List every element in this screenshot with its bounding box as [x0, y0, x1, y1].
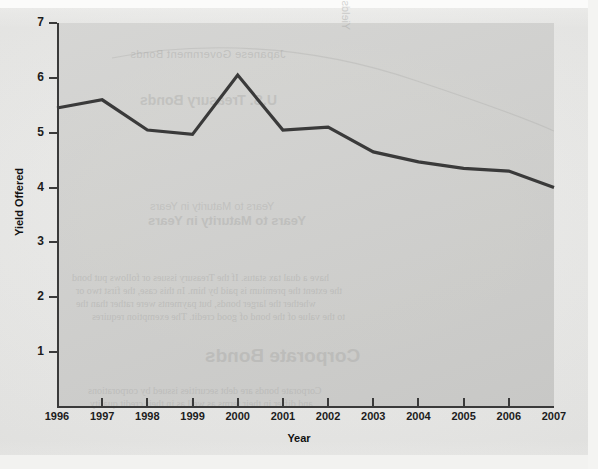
y-axis-title: Yield Offered [13, 157, 25, 247]
x-axis-line [57, 406, 554, 408]
y-tick-label: 6 [22, 70, 44, 84]
x-tick-mark [463, 398, 465, 406]
y-tick-label: 4 [22, 180, 44, 194]
y-tick-mark [49, 296, 57, 298]
x-tick-mark [508, 398, 510, 406]
x-tick-label: 1997 [80, 410, 124, 422]
y-tick-mark [49, 132, 57, 134]
x-tick-label: 2004 [396, 410, 440, 422]
x-tick-mark [146, 398, 148, 406]
y-tick-mark [49, 187, 57, 189]
x-tick-mark [372, 398, 374, 406]
x-tick-label: 1998 [125, 410, 169, 422]
x-tick-mark [282, 398, 284, 406]
y-axis-line [57, 23, 59, 408]
x-tick-mark [237, 398, 239, 406]
y-tick-label: 1 [22, 344, 44, 358]
x-tick-label: 2005 [442, 410, 486, 422]
y-tick-label: 3 [22, 234, 44, 248]
line-chart: Japanese Government Bonds U.S. Treasury … [0, 0, 598, 469]
x-tick-label: 2001 [261, 410, 305, 422]
x-tick-label: 1999 [171, 410, 215, 422]
y-tick-mark [49, 22, 57, 24]
x-tick-mark [327, 398, 329, 406]
x-tick-label: 2003 [351, 410, 395, 422]
y-tick-label: 2 [22, 289, 44, 303]
y-tick-mark [49, 351, 57, 353]
y-tick-mark [49, 241, 57, 243]
y-tick-label: 5 [22, 125, 44, 139]
x-tick-label: 2006 [487, 410, 531, 422]
x-axis-title: Year [0, 432, 598, 444]
x-tick-mark [417, 398, 419, 406]
x-tick-mark [192, 398, 194, 406]
x-tick-mark [101, 398, 103, 406]
y-tick-mark [49, 77, 57, 79]
x-tick-label: 2007 [532, 410, 576, 422]
x-tick-label: 1996 [35, 410, 79, 422]
plot-area-background [57, 23, 554, 408]
y-tick-label: 7 [22, 15, 44, 29]
x-tick-label: 2002 [306, 410, 350, 422]
x-tick-label: 2000 [216, 410, 260, 422]
